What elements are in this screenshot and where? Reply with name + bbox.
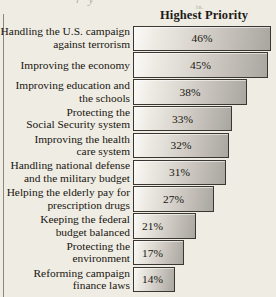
bar-value-label: 38%	[176, 86, 204, 98]
bar: 31%	[133, 160, 226, 185]
bar-value-label: 46%	[188, 32, 216, 44]
bar: 21%	[133, 213, 196, 238]
bar: 17%	[133, 240, 184, 265]
chart-header: Highest Priority	[133, 6, 276, 24]
bar-row-label: Protecting the environment	[0, 240, 130, 265]
bar-row-label: Reforming campaign finance laws	[0, 267, 130, 292]
bar-value-label: 14%	[142, 273, 163, 285]
bar-row-label: Helping the elderly pay for prescription…	[0, 187, 130, 212]
bar-row: Keeping the federal budget balanced21%	[0, 213, 276, 240]
bar: 45%	[133, 52, 268, 77]
bar-row-label: Improving education and the schools	[0, 79, 130, 104]
bar-row: Improving education and the schools38%	[0, 79, 276, 106]
bar-row-label: Handling national defense and the milita…	[0, 160, 130, 185]
bar-row-label: Improving the health care system	[0, 133, 130, 158]
bar-row-label: Protecting the Social Security system	[0, 106, 130, 131]
bar-row: Reforming campaign finance laws14%	[0, 266, 276, 293]
bar-row: Handling the U.S. campaign against terro…	[0, 25, 276, 52]
bar-rows: Handling the U.S. campaign against terro…	[0, 25, 276, 293]
bar-row: Helping the elderly pay for prescription…	[0, 186, 276, 213]
bar-value-label: 31%	[166, 166, 194, 178]
bar-row: Improving the economy45%	[0, 52, 276, 79]
bar-row: Protecting the environment17%	[0, 239, 276, 266]
bar: 32%	[133, 133, 229, 158]
bar: 46%	[133, 26, 271, 51]
bar-row: Protecting the Social Security system33%	[0, 105, 276, 132]
bar-row: Improving the health care system32%	[0, 132, 276, 159]
bar-value-label: 45%	[187, 59, 215, 71]
bar-value-label: 21%	[142, 220, 163, 232]
bar: 14%	[133, 267, 175, 292]
bar-value-label: 33%	[169, 113, 197, 125]
bar-value-label: 17%	[142, 247, 163, 259]
bar-value-label: 27%	[160, 193, 188, 205]
bar-row: Handling national defense and the milita…	[0, 159, 276, 186]
bar-chart: Highest Priority Handling the U.S. campa…	[0, 0, 276, 297]
bar-row-label: Keeping the federal budget balanced	[0, 213, 130, 238]
bar-row-label: Handling the U.S. campaign against terro…	[0, 26, 130, 51]
bar: 38%	[133, 79, 247, 104]
bar: 33%	[133, 106, 232, 131]
bar: 27%	[133, 186, 214, 211]
bar-row-label: Improving the economy	[0, 59, 130, 72]
chart-title: Highest Priority	[133, 6, 276, 24]
bar-value-label: 32%	[167, 139, 195, 151]
